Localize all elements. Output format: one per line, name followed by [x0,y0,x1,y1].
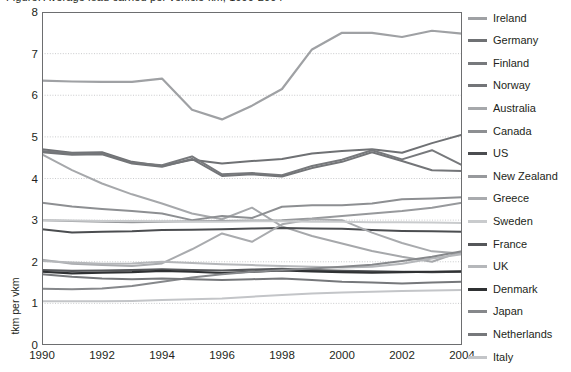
legend-swatch-icon [468,175,487,178]
legend-swatch-icon [468,39,487,42]
legend-item-netherlands[interactable]: Netherlands [468,327,552,341]
y-tick-3: 3 [14,214,38,226]
legend-item-ireland[interactable]: Ireland [468,11,527,25]
legend-label: Canada [493,126,532,137]
series-line-netherlands [42,274,462,283]
legend-label: Ireland [493,13,527,24]
legend-item-australia[interactable]: Australia [468,101,536,115]
legend-label: Denmark [493,284,538,295]
legend-item-uk[interactable]: UK [468,260,508,274]
legend-item-france[interactable]: France [468,237,527,251]
legend-item-greece[interactable]: Greece [468,192,529,206]
legend-item-canada[interactable]: Canada [468,124,532,138]
x-tick-1998: 1998 [269,349,295,361]
legend-label: Norway [493,80,530,91]
plot-area [42,12,462,345]
series-line-greece [42,219,462,266]
legend-label: US [493,148,508,159]
series-line-italy [42,290,462,301]
chart-screenshot: Figure: Average load carried per vehicle… [0,0,571,372]
legend-swatch-icon [468,84,487,87]
chart-legend: IrelandGermanyFinlandNorwayAustraliaCana… [468,4,571,368]
legend-swatch-icon [468,62,487,65]
x-tick-1996: 1996 [209,349,235,361]
series-line-germany [42,135,462,166]
series-line-us [42,228,462,233]
legend-item-germany[interactable]: Germany [468,34,538,48]
legend-swatch-icon [468,17,487,20]
series-line-australia [42,154,462,261]
legend-swatch-icon [468,152,487,155]
legend-swatch-icon [468,333,487,336]
series-line-new-zealand [42,203,462,223]
data-series-group [42,31,462,302]
legend-item-italy[interactable]: Italy [468,350,513,364]
series-line-ireland [42,31,462,120]
x-tick-2002: 2002 [389,349,415,361]
legend-swatch-icon [468,130,487,133]
series-line-finland [42,150,462,175]
chart-title: Figure: Average load carried per vehicle… [6,0,283,3]
legend-swatch-icon [468,197,487,200]
legend-swatch-icon [468,310,487,313]
y-tick-8: 8 [14,6,38,18]
legend-label: Germany [493,35,538,46]
x-tick-1992: 1992 [89,349,115,361]
legend-label: Japan [493,306,523,317]
legend-label: Australia [493,103,536,114]
y-tick-4: 4 [14,173,38,185]
legend-label: New Zealand [493,171,558,182]
legend-swatch-icon [468,288,487,291]
x-tick-1990: 1990 [29,349,55,361]
legend-swatch-icon [468,356,487,359]
legend-swatch-icon [468,243,487,246]
legend-label: UK [493,261,508,272]
y-tick-6: 6 [14,89,38,101]
legend-label: France [493,239,527,250]
legend-item-denmark[interactable]: Denmark [468,282,538,296]
line-chart-svg [42,12,462,345]
legend-label: Finland [493,58,529,69]
legend-item-new-zealand[interactable]: New Zealand [468,169,558,183]
legend-swatch-icon [468,220,487,223]
legend-swatch-icon [468,265,487,268]
y-tick-2: 2 [14,256,38,268]
legend-item-japan[interactable]: Japan [468,305,523,319]
y-tick-5: 5 [14,131,38,143]
legend-item-sweden[interactable]: Sweden [468,214,533,228]
y-axis-title: tkm per vkm [9,269,21,343]
x-tick-2000: 2000 [329,349,355,361]
legend-label: Greece [493,193,529,204]
legend-label: Sweden [493,216,533,227]
y-tick-7: 7 [14,48,38,60]
x-tick-1994: 1994 [149,349,175,361]
legend-item-us[interactable]: US [468,147,508,161]
legend-swatch-icon [468,107,487,110]
legend-label: Netherlands [493,329,552,340]
legend-item-norway[interactable]: Norway [468,79,530,93]
legend-label: Italy [493,352,513,363]
legend-item-finland[interactable]: Finland [468,56,529,70]
